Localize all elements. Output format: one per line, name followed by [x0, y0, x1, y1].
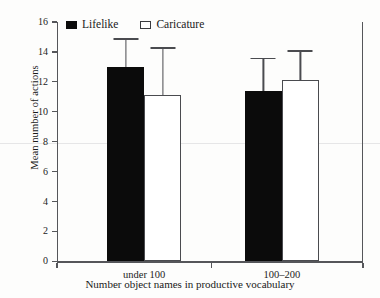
x-tick — [362, 263, 363, 268]
error-bar-stem — [263, 58, 264, 91]
bar-caricature-0 — [144, 95, 181, 261]
y-tick: 2 — [52, 231, 57, 232]
y-tick-label: 6 — [43, 166, 48, 177]
y-tick-label: 14 — [38, 46, 48, 57]
error-bar-stem — [125, 38, 126, 66]
x-tick-label: under 100 — [84, 269, 204, 280]
error-bar-stem — [162, 47, 163, 95]
error-bar-cap — [288, 50, 313, 52]
bar-caricature-1 — [282, 80, 319, 261]
y-tick-label: 10 — [38, 106, 48, 117]
y-tick: 10 — [52, 111, 57, 112]
y-axis-line — [57, 22, 58, 263]
y-tick-label: 4 — [43, 196, 48, 207]
error-bar-lifelike-0 — [107, 38, 144, 66]
bar-chart-figure: Mean number of actions Number object nam… — [0, 0, 380, 298]
y-tick: 6 — [52, 171, 57, 172]
right-spine-line — [362, 22, 363, 263]
y-tick-label: 2 — [43, 226, 48, 237]
bar-lifelike-1 — [245, 91, 282, 262]
y-tick-label: 12 — [38, 76, 48, 87]
y-tick-label: 0 — [43, 256, 48, 267]
y-tick: 8 — [52, 141, 57, 142]
error-bar-lifelike-1 — [245, 58, 282, 91]
x-tick — [56, 263, 57, 268]
y-tick: 0 — [52, 261, 57, 262]
error-bar-caricature-1 — [282, 50, 319, 80]
y-tick-label: 8 — [43, 136, 48, 147]
x-tick-label: 100–200 — [222, 269, 342, 280]
y-tick: 12 — [52, 81, 57, 82]
bar-lifelike-0 — [107, 67, 144, 262]
error-bar-cap — [113, 38, 138, 40]
y-tick: 4 — [52, 201, 57, 202]
y-tick: 14 — [52, 51, 57, 52]
x-tick — [211, 263, 212, 268]
error-bar-cap — [251, 58, 276, 60]
plot-area: 0246810121416 under 100100–200 — [57, 22, 363, 263]
error-bar-stem — [300, 50, 301, 80]
error-bar-cap — [150, 47, 175, 49]
y-tick-label: 16 — [38, 16, 48, 27]
y-tick: 16 — [52, 21, 57, 22]
error-bar-caricature-0 — [144, 47, 181, 95]
